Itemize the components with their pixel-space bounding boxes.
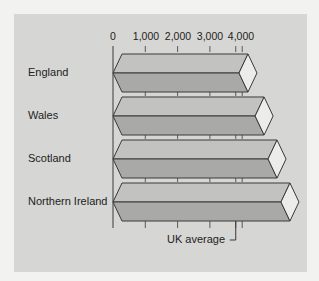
bar-bottom-face xyxy=(113,73,248,92)
uk-average-label: UK average xyxy=(167,233,225,245)
x-tick-label: 1,000 xyxy=(133,30,159,42)
bar-top-face xyxy=(113,140,277,159)
category-label-england: England xyxy=(28,66,68,78)
bar-bottom-face xyxy=(113,159,277,178)
category-label-northern-ireland: Northern Ireland xyxy=(28,195,108,207)
bar-top-face xyxy=(113,54,248,73)
x-tick-label: 3,000 xyxy=(197,30,223,42)
category-label-wales: Wales xyxy=(28,109,58,121)
bar-bottom-face xyxy=(113,202,290,221)
x-tick-label: 0 xyxy=(110,30,116,42)
x-tick-label: 4,000 xyxy=(228,30,254,42)
bar-bottom-face xyxy=(113,116,264,135)
bar-top-face xyxy=(113,183,290,202)
x-tick-label: 2,000 xyxy=(165,30,191,42)
bar-chart xyxy=(0,0,319,281)
uk-average-pointer xyxy=(230,220,236,240)
bar-top-face xyxy=(113,97,264,116)
category-label-scotland: Scotland xyxy=(28,152,71,164)
